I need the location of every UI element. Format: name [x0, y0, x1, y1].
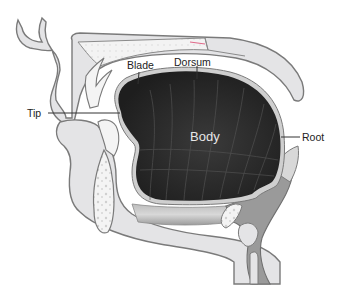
tongue-anatomy-diagram: Blade Dorsum Tip Body Root — [0, 0, 347, 298]
label-root: Root — [302, 131, 324, 143]
label-dorsum: Dorsum — [174, 56, 211, 68]
nose-upper-lip — [17, 18, 53, 51]
floor-muscle — [132, 204, 232, 225]
label-tip: Tip — [27, 107, 41, 119]
trachea — [250, 252, 258, 284]
label-blade: Blade — [127, 59, 154, 71]
label-body: Body — [190, 129, 220, 144]
